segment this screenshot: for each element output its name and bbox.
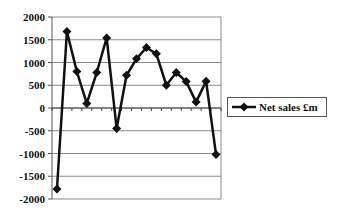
y-tick-label: -2000 (19, 193, 45, 205)
data-point-marker (112, 124, 121, 133)
legend: Net sales £m (227, 97, 327, 117)
y-tick-label: 1500 (23, 34, 46, 46)
y-tick-label: 500 (29, 79, 46, 91)
y-tick-label: 1000 (23, 57, 46, 69)
data-point-marker (92, 68, 101, 77)
y-axis-tick-labels: 2000150010005000-500-1000-1500-2000 (19, 11, 45, 205)
data-point-marker (52, 184, 61, 193)
data-point-marker (102, 33, 111, 42)
series-net-sales (52, 27, 220, 193)
data-point-marker (82, 99, 91, 108)
diamond-marker-icon (231, 101, 257, 113)
data-point-marker (212, 150, 221, 159)
axes (52, 17, 221, 199)
data-point-marker (202, 77, 211, 86)
y-tick-label: -1500 (19, 170, 45, 182)
data-point-marker (72, 67, 81, 76)
y-tick-label: -1000 (19, 148, 45, 160)
y-tick-label: -500 (25, 125, 46, 137)
y-tick-label: 2000 (23, 11, 46, 23)
data-point-marker (192, 98, 201, 107)
legend-label: Net sales £m (259, 101, 318, 113)
y-tick-label: 0 (40, 102, 46, 114)
data-point-marker (62, 27, 71, 36)
